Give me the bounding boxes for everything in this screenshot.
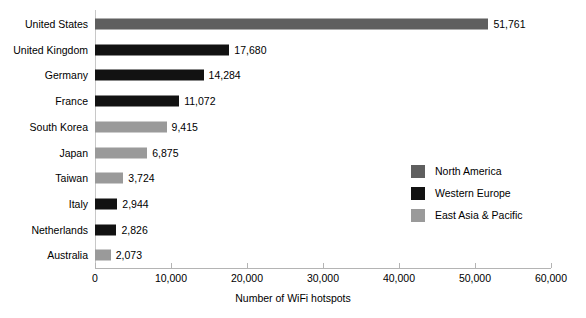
bar bbox=[95, 250, 111, 261]
category-label: Italy bbox=[0, 198, 88, 210]
x-axis-tick-label: 60,000 bbox=[535, 272, 567, 284]
x-axis-tick bbox=[247, 263, 248, 268]
x-axis-tick-label: 0 bbox=[92, 272, 98, 284]
x-axis-tick-label: 30,000 bbox=[307, 272, 339, 284]
legend-color-swatch bbox=[411, 165, 425, 178]
bar bbox=[95, 224, 116, 235]
bar bbox=[95, 44, 229, 55]
bar-value-label: 17,680 bbox=[234, 44, 266, 56]
legend-label: East Asia & Pacific bbox=[435, 208, 523, 222]
x-axis-tick bbox=[475, 263, 476, 268]
bar-value-label: 11,072 bbox=[184, 95, 215, 107]
category-label: France bbox=[0, 95, 88, 107]
x-axis-line bbox=[95, 268, 551, 269]
bar-value-label: 9,415 bbox=[172, 121, 198, 133]
bar-row: Germany14,284 bbox=[0, 62, 586, 88]
bar-row: France11,072 bbox=[0, 88, 586, 114]
plot-area: United States51,761United Kingdom17,680G… bbox=[0, 0, 586, 318]
x-axis-tick-label: 20,000 bbox=[231, 272, 263, 284]
bar bbox=[95, 70, 204, 81]
x-axis-tick bbox=[171, 263, 172, 268]
category-label: United States bbox=[0, 18, 88, 30]
x-axis-tick bbox=[323, 263, 324, 268]
wifi-hotspots-bar-chart: United States51,761United Kingdom17,680G… bbox=[0, 0, 586, 318]
bar bbox=[95, 198, 117, 209]
category-label: United Kingdom bbox=[0, 44, 88, 56]
bar-value-label: 2,826 bbox=[121, 224, 147, 236]
bar bbox=[95, 147, 147, 158]
bar-value-label: 51,761 bbox=[493, 18, 525, 30]
legend-label: North America bbox=[435, 164, 502, 178]
category-label: South Korea bbox=[0, 121, 88, 133]
bar-row: Australia2,073 bbox=[0, 242, 586, 268]
category-label: Taiwan bbox=[0, 172, 88, 184]
x-axis-tick-label: 40,000 bbox=[383, 272, 415, 284]
x-axis-tick-label: 10,000 bbox=[155, 272, 187, 284]
bar-row: United Kingdom17,680 bbox=[0, 37, 586, 63]
legend-color-swatch bbox=[411, 209, 425, 222]
x-axis-title: Number of WiFi hotspots bbox=[0, 292, 586, 304]
bar bbox=[95, 19, 488, 30]
bar-value-label: 6,875 bbox=[152, 147, 178, 159]
legend-label: Western Europe bbox=[435, 186, 511, 200]
bar bbox=[95, 121, 167, 132]
bar-row: United States51,761 bbox=[0, 11, 586, 37]
x-axis-tick bbox=[551, 263, 552, 268]
bar-row: Japan6,875 bbox=[0, 140, 586, 166]
category-label: Netherlands bbox=[0, 224, 88, 236]
legend-color-swatch bbox=[411, 187, 425, 200]
x-axis-tick bbox=[95, 263, 96, 268]
category-label: Japan bbox=[0, 147, 88, 159]
bar bbox=[95, 96, 179, 107]
bar-value-label: 14,284 bbox=[209, 69, 241, 81]
category-label: Australia bbox=[0, 249, 88, 261]
x-axis-tick bbox=[399, 263, 400, 268]
bar-value-label: 3,724 bbox=[128, 172, 154, 184]
x-axis-tick-label: 50,000 bbox=[459, 272, 491, 284]
bar-value-label: 2,944 bbox=[122, 198, 148, 210]
bar-value-label: 2,073 bbox=[116, 249, 142, 261]
category-label: Germany bbox=[0, 69, 88, 81]
bar bbox=[95, 173, 123, 184]
bar-row: South Korea9,415 bbox=[0, 114, 586, 140]
